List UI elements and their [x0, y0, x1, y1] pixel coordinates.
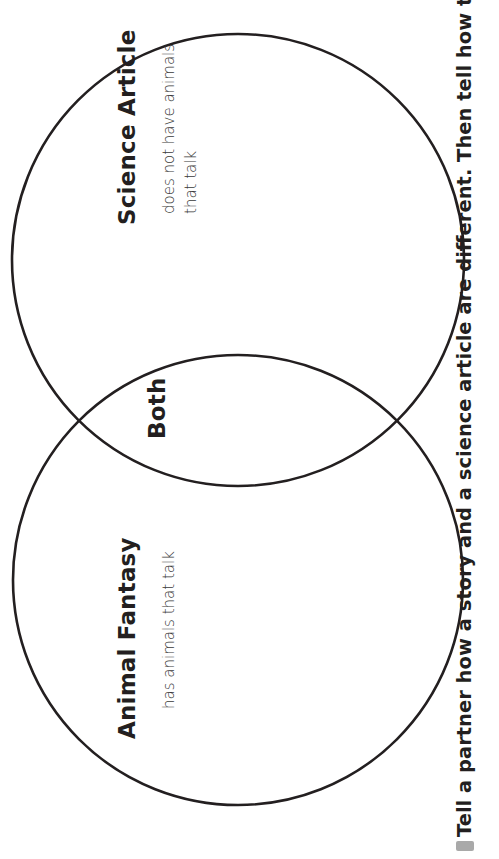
right-circle-note-line2: that talk: [180, 151, 202, 214]
prompt-text: Tell a partner how a story and a science…: [453, 0, 476, 837]
left-circle-title: Animal Fantasy: [114, 537, 140, 739]
right-circle-note-line1: does not have animals: [158, 44, 180, 214]
bullet-icon: [456, 841, 474, 851]
left-circle-note: has animals that talk: [158, 551, 180, 709]
discussion-prompt: Tell a partner how a story and a science…: [453, 0, 476, 851]
right-circle-title: Science Article: [114, 30, 140, 225]
worksheet-page: Animal Fantasy has animals that talk Bot…: [0, 0, 499, 859]
overlap-title: Both: [144, 377, 170, 439]
venn-diagram: [0, 0, 499, 859]
